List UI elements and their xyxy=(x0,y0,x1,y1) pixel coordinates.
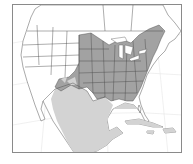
range-map xyxy=(12,4,182,153)
map-canvas xyxy=(13,5,182,153)
